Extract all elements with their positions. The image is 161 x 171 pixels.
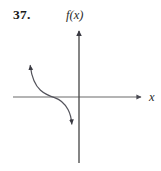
function-curve <box>30 66 72 125</box>
figure-container: 37. f(x) x <box>0 0 161 171</box>
graph-plot <box>0 0 161 171</box>
